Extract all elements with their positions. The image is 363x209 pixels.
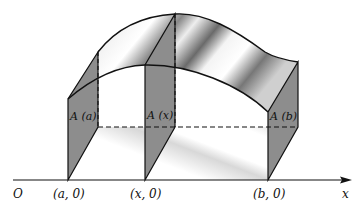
point-label-x: (x, 0) (130, 187, 162, 201)
section-label-a: A (a) (69, 110, 97, 123)
axis-label-x: x (342, 187, 349, 201)
point-label-b: (b, 0) (253, 187, 286, 201)
solid-cross-section-diagram: A (a) A (x) A (b) O (a, 0) (x, 0) (b, 0)… (0, 0, 363, 209)
origin-label: O (13, 187, 23, 201)
section-label-b: A (b) (269, 110, 297, 123)
solid-top-surface (68, 14, 298, 112)
solid-base (68, 127, 298, 180)
point-label-a: (a, 0) (53, 187, 85, 201)
section-label-x: A (x) (146, 109, 173, 122)
